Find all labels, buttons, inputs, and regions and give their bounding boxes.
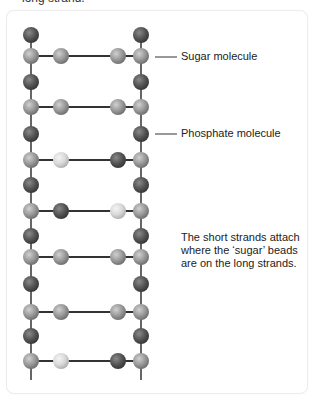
- base-bead: [53, 304, 69, 320]
- base-bead: [53, 353, 69, 369]
- base-bead: [53, 99, 69, 115]
- phosphate-bead: [133, 276, 149, 292]
- phosphate-bead: [133, 228, 149, 244]
- dna-ladder-diagram: [0, 0, 314, 399]
- sugar-bead: [23, 48, 39, 64]
- sugar-bead: [133, 353, 149, 369]
- base-bead: [110, 304, 126, 320]
- sugar-bead: [133, 304, 149, 320]
- explanation-note: The short strands attach where the ‘suga…: [181, 231, 311, 270]
- base-bead: [110, 249, 126, 265]
- beads: [23, 27, 149, 369]
- sugar-bead: [23, 249, 39, 265]
- base-bead: [110, 99, 126, 115]
- base-bead: [53, 152, 69, 168]
- phosphate-bead: [133, 177, 149, 193]
- long-strands: [31, 30, 141, 380]
- sugar-bead: [133, 48, 149, 64]
- base-bead: [110, 152, 126, 168]
- sugar-bead: [133, 249, 149, 265]
- base-bead: [110, 203, 126, 219]
- base-bead: [110, 353, 126, 369]
- sugar-bead: [23, 203, 39, 219]
- sugar-bead: [133, 152, 149, 168]
- phosphate-bead: [23, 328, 39, 344]
- sugar-bead: [133, 99, 149, 115]
- sugar-bead: [23, 99, 39, 115]
- phosphate-bead: [23, 74, 39, 90]
- label-leader-lines: [155, 57, 177, 134]
- phosphate-bead: [23, 228, 39, 244]
- phosphate-bead: [133, 126, 149, 142]
- phosphate-bead: [133, 328, 149, 344]
- base-bead: [53, 203, 69, 219]
- phosphate-bead: [23, 177, 39, 193]
- sugar-bead: [133, 203, 149, 219]
- phosphate-bead: [23, 27, 39, 43]
- phosphate-molecule-label: Phosphate molecule: [181, 127, 281, 139]
- sugar-molecule-label: Sugar molecule: [181, 50, 257, 62]
- phosphate-bead: [23, 126, 39, 142]
- phosphate-bead: [23, 276, 39, 292]
- base-bead: [110, 48, 126, 64]
- base-bead: [53, 249, 69, 265]
- base-bead: [53, 48, 69, 64]
- sugar-bead: [23, 304, 39, 320]
- phosphate-bead: [133, 27, 149, 43]
- sugar-bead: [23, 353, 39, 369]
- phosphate-bead: [133, 74, 149, 90]
- sugar-bead: [23, 152, 39, 168]
